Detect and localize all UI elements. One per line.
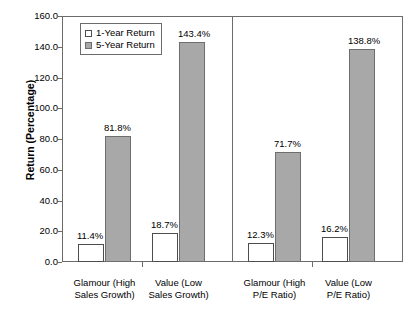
y-axis-tick-mark xyxy=(57,231,62,232)
chart-legend: 1-Year Return 5-Year Return xyxy=(80,23,162,55)
category-label-line-2: Sales Growth) xyxy=(124,289,234,301)
y-axis-tick-label: 140.0 xyxy=(0,42,58,52)
legend-label: 1-Year Return xyxy=(96,27,155,39)
y-axis-tick-mark xyxy=(57,16,62,17)
bar-5-year xyxy=(275,152,301,262)
bar-value-label: 138.8% xyxy=(348,36,380,46)
y-axis-tick-mark xyxy=(57,262,62,263)
y-axis-tick-label: 160.0 xyxy=(0,11,58,21)
y-axis-tick-label: 0.0 xyxy=(0,257,58,267)
bar-1-year xyxy=(78,244,104,262)
legend-swatch-white-square-icon xyxy=(85,30,92,37)
y-axis-tick-label: 60.0 xyxy=(0,165,58,175)
bar-1-year xyxy=(322,237,348,262)
bar-value-label: 18.7% xyxy=(151,220,178,230)
bar-value-label: 81.8% xyxy=(104,123,131,133)
legend-item-1-year: 1-Year Return xyxy=(85,27,155,39)
y-axis-tick-label: 120.0 xyxy=(0,73,58,83)
category-label-line-2: P/E Ratio) xyxy=(294,289,404,301)
bar-5-year xyxy=(105,136,131,262)
bar-value-label: 12.3% xyxy=(247,230,274,240)
bar-1-year xyxy=(248,243,274,262)
y-axis-tick-label: 40.0 xyxy=(0,196,58,206)
legend-swatch-gray-square-icon xyxy=(85,42,92,49)
y-axis-tick-mark xyxy=(57,170,62,171)
y-axis-tick-label: 100.0 xyxy=(0,103,58,113)
legend-item-5-year: 5-Year Return xyxy=(85,39,155,51)
y-axis-tick-label: 20.0 xyxy=(0,226,58,236)
bar-5-year xyxy=(349,49,375,262)
x-axis-tick-mark xyxy=(142,262,143,267)
category-label-line-1: Value (Low xyxy=(294,277,404,289)
bar-value-label: 16.2% xyxy=(321,224,348,234)
x-axis-tick-mark xyxy=(312,262,313,267)
bar-5-year xyxy=(179,42,205,262)
y-axis-tick-mark xyxy=(57,201,62,202)
y-axis-tick-mark xyxy=(57,108,62,109)
bar-value-label: 71.7% xyxy=(274,139,301,149)
category-label-line-1: Value (Low xyxy=(124,277,234,289)
bar-value-label: 11.4% xyxy=(77,231,103,241)
y-axis-tick-mark xyxy=(57,78,62,79)
legend-label: 5-Year Return xyxy=(96,39,155,51)
bar-1-year xyxy=(152,233,178,262)
x-axis-category-label: Value (LowP/E Ratio) xyxy=(294,277,404,301)
bar-chart: Return (Percentage) 0.020.040.060.080.01… xyxy=(0,0,418,312)
x-axis-category-label: Value (LowSales Growth) xyxy=(124,277,234,301)
y-axis-tick-mark xyxy=(57,139,62,140)
y-axis-tick-label: 80.0 xyxy=(0,134,58,144)
panel-divider xyxy=(232,16,233,262)
bar-value-label: 143.4% xyxy=(178,29,210,39)
y-axis-tick-mark xyxy=(57,47,62,48)
